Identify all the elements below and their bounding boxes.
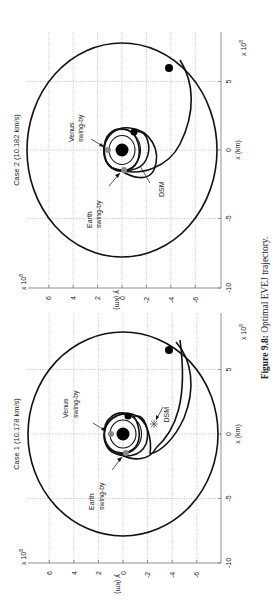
svg-text:4: 4 bbox=[71, 571, 78, 575]
x-axis-label: x (km) bbox=[234, 424, 242, 443]
svg-text:-6: -6 bbox=[192, 297, 199, 303]
annotation-earth: Earth swing-by bbox=[86, 173, 120, 228]
axes-frame bbox=[28, 32, 221, 288]
venus-swingby-marker bbox=[105, 147, 111, 153]
departure-marker bbox=[131, 129, 138, 136]
x-tick-labels: -10 -5 0 5 bbox=[225, 79, 232, 293]
plot-case2: Venus swing-by Earth swing-by DSM Case 2… bbox=[12, 32, 247, 310]
annotation-earth: Earth swing-by bbox=[88, 457, 122, 510]
x-tick-labels: -10 -5 0 5 bbox=[225, 367, 232, 568]
svg-text:5: 5 bbox=[225, 367, 232, 371]
venus-swingby-marker bbox=[108, 431, 114, 437]
svg-text:0: 0 bbox=[225, 432, 232, 436]
plot-title: Case 1 (10.178 km/s) bbox=[12, 398, 21, 470]
venus-label-2: swing-by bbox=[72, 390, 80, 418]
y-tick-labels: 6 4 2 0 -2 -4 -6 bbox=[46, 571, 200, 578]
earth-swingby-marker bbox=[123, 450, 129, 456]
jupiter-arrival-marker bbox=[165, 64, 173, 72]
svg-text:-4: -4 bbox=[169, 572, 176, 578]
y-axis-label: y (km) bbox=[114, 574, 122, 593]
plot-case1: Venus swing-by Earth swing-by DSM Case 1… bbox=[12, 313, 247, 594]
earth-swingby-marker bbox=[121, 167, 127, 173]
svg-text:-2: -2 bbox=[144, 572, 151, 578]
venus-label: Venus bbox=[68, 122, 75, 142]
y-axis-label: y (km) bbox=[113, 290, 121, 309]
svg-text:-2: -2 bbox=[143, 297, 150, 303]
earth-label-2: swing-by bbox=[98, 482, 106, 510]
y-multiplier: x 108 bbox=[18, 274, 27, 290]
svg-text:5: 5 bbox=[225, 79, 232, 83]
venus-label-2: swing-by bbox=[77, 114, 85, 142]
svg-text:-5: -5 bbox=[225, 215, 232, 221]
trajectory bbox=[104, 60, 191, 178]
svg-text:6: 6 bbox=[45, 296, 52, 300]
dsm-label: DSM bbox=[158, 181, 165, 197]
svg-text:2: 2 bbox=[95, 571, 102, 575]
x-multiplier: x 108 bbox=[238, 40, 247, 56]
figure-canvas: Venus swing-by Earth swing-by DSM Case 2… bbox=[0, 0, 277, 616]
earth-label: Earth bbox=[86, 211, 93, 228]
sun-marker bbox=[117, 428, 130, 441]
x-multiplier: x 108 bbox=[238, 324, 247, 340]
dsm-label: DSM bbox=[163, 407, 170, 423]
figure-caption: Figure 9.8: Optimal EVEJ trajectory. bbox=[260, 237, 270, 380]
svg-text:-5: -5 bbox=[225, 495, 232, 501]
gridlines bbox=[28, 32, 221, 288]
x-axis-label: x (km) bbox=[234, 140, 242, 159]
svg-text:-10: -10 bbox=[225, 558, 232, 568]
dsm-marker bbox=[150, 420, 158, 428]
y-tick-labels: 6 4 2 0 -2 -4 -6 bbox=[45, 296, 199, 303]
plot-title: Case 2 (10.182 km/s) bbox=[12, 114, 21, 186]
svg-text:2: 2 bbox=[94, 296, 101, 300]
svg-text:-10: -10 bbox=[225, 283, 232, 293]
svg-text:-6: -6 bbox=[193, 572, 200, 578]
earth-label: Earth bbox=[88, 493, 95, 510]
svg-text:4: 4 bbox=[70, 296, 77, 300]
earth-label-2: swing-by bbox=[95, 200, 103, 228]
sun-marker bbox=[116, 144, 129, 157]
annotation-dsm: DSM bbox=[156, 407, 170, 423]
y-multiplier: x 108 bbox=[18, 549, 27, 565]
svg-text:6: 6 bbox=[46, 571, 53, 575]
svg-text:0: 0 bbox=[225, 148, 232, 152]
annotation-venus: Venus swing-by bbox=[62, 390, 106, 431]
svg-text:-4: -4 bbox=[168, 297, 175, 303]
venus-label: Venus bbox=[62, 398, 69, 418]
jupiter-arrival-marker bbox=[165, 346, 173, 354]
departure-marker bbox=[125, 413, 132, 420]
